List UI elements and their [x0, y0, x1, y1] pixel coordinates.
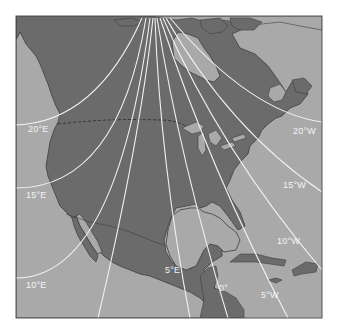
label-5E: 5°E: [165, 265, 180, 275]
declination-map: 20°E 15°E 10°E 5°E 0° 5°W 10°W 15°W 20°W: [0, 0, 338, 329]
label-15W: 15°W: [283, 180, 306, 190]
label-5W: 5°W: [261, 290, 279, 300]
label-15E: 15°E: [26, 190, 46, 200]
label-20W: 20°W: [293, 126, 316, 136]
label-10W: 10°W: [277, 236, 300, 246]
map-canvas: [0, 0, 338, 329]
label-20E: 20°E: [28, 124, 48, 134]
label-10E: 10°E: [26, 280, 46, 290]
label-0: 0°: [219, 283, 228, 293]
